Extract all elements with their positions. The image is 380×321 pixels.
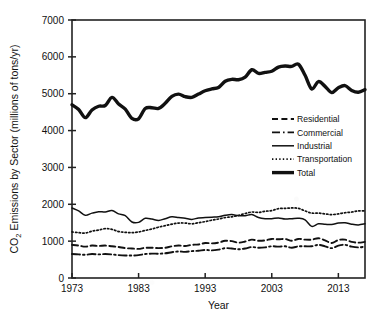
y-tick-label-1000: 1000: [42, 236, 65, 247]
legend-label-transportation: Transportation: [297, 154, 352, 164]
legend-label-industrial: Industrial: [297, 141, 332, 151]
y-tick-label-7000: 7000: [42, 15, 65, 26]
co2-emissions-by-sector-line-chart: 0100020003000400050006000700019731983199…: [0, 0, 380, 321]
x-tick-label-1993: 1993: [194, 283, 217, 294]
y-tick-label-6000: 6000: [42, 51, 65, 62]
chart-container: 0100020003000400050006000700019731983199…: [0, 0, 380, 321]
legend-label-residential: Residential: [297, 114, 340, 124]
y-axis-title: CO2 Emissions by Sector (millions of ton…: [8, 44, 23, 253]
x-tick-label-1983: 1983: [127, 283, 150, 294]
y-axis-title-post: Emissions by Sector (millions of tons/yr…: [8, 44, 20, 233]
y-tick-label-4000: 4000: [42, 125, 65, 136]
x-tick-label-1973: 1973: [61, 283, 84, 294]
y-tick-label-5000: 5000: [42, 88, 65, 99]
y-tick-label-0: 0: [58, 273, 64, 284]
legend-label-total: Total: [297, 168, 315, 178]
x-tick-label-2003: 2003: [261, 283, 284, 294]
y-axis-title-pre: CO: [8, 238, 20, 254]
legend-label-commercial: Commercial: [297, 128, 343, 138]
x-tick-label-2013: 2013: [327, 283, 350, 294]
y-tick-label-2000: 2000: [42, 199, 65, 210]
y-tick-label-3000: 3000: [42, 162, 65, 173]
x-axis-title: Year: [208, 299, 230, 311]
